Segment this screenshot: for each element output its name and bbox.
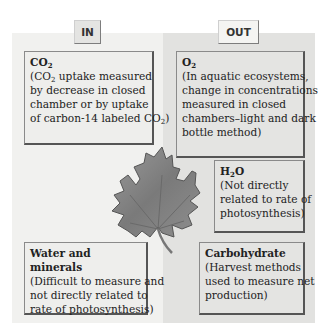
out-label: OUT [226,26,251,38]
co2-line4-pre: of carbon-14 labeled CO [30,112,161,124]
co2-title: CO2 [30,55,147,69]
carbohydrate-desc-line: used to measure net [205,274,298,288]
h2o-title-post: O [235,165,244,177]
co2-desc-line: by decrease in closed [30,83,147,97]
co2-desc-line: of carbon-14 labeled CO2) [30,111,147,125]
h2o-desc-line: related to rate of [220,192,298,206]
co2-line4-post: ) [165,112,169,124]
co2-desc-line: (CO2 uptake measured [30,69,147,83]
in-label: IN [81,26,94,38]
maple-leaf-icon [100,145,220,257]
o2-desc-line: (In aquatic ecosystems, [182,69,298,83]
h2o-desc-line: (Not directly [220,178,298,192]
water-desc-line: rate of photosynthesis) [30,302,141,316]
h2o-title-pre: H [220,165,230,177]
h2o-title: H2O [220,164,298,178]
carbohydrate-title: Carbohydrate [205,246,298,260]
water-desc-line: not directly related to [30,288,141,302]
water-minerals-title: Water and minerals [30,246,141,274]
in-column-header: IN [74,20,101,44]
co2-desc-line: chamber or by uptake [30,97,147,111]
h2o-desc-line: photosynthesis) [220,206,298,220]
co2-box: CO2 (CO2 uptake measured by decrease in … [24,51,154,145]
o2-title-text: O [182,56,191,68]
carbohydrate-desc-line: (Harvest methods [205,260,298,274]
o2-title: O2 [182,55,298,69]
co2-line1-post: uptake measured [55,70,152,82]
water-desc-line: (Difficult to measure and [30,274,141,288]
carbohydrate-desc-line: production) [205,288,298,302]
co2-title-text: CO [30,56,48,68]
co2-line1-pre: (CO [30,70,51,82]
water-minerals-box: Water and minerals (Difficult to measure… [24,242,148,315]
carbohydrate-box: Carbohydrate (Harvest methods used to me… [199,242,305,315]
o2-desc-line: measured in closed [182,97,298,111]
o2-desc-line: chambers–light and dark [182,111,298,125]
o2-desc-line: bottle method) [182,125,298,139]
o2-box: O2 (In aquatic ecosystems, change in con… [176,51,305,158]
o2-desc-line: change in concentrations [182,83,298,97]
out-column-header: OUT [218,20,259,44]
h2o-box: H2O (Not directly related to rate of pho… [214,160,305,233]
